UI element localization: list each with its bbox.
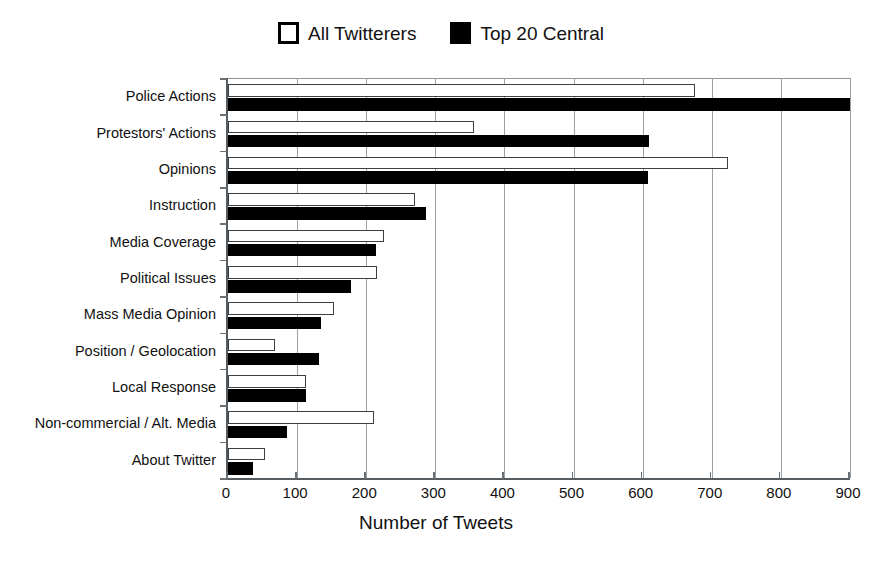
y-axis-tick [220, 151, 227, 153]
x-axis-tick-label: 900 [835, 484, 860, 501]
x-axis-tick [572, 472, 574, 479]
bar-group [228, 223, 850, 259]
bar-all-twitterers [228, 266, 377, 279]
x-axis-tick-label: 700 [697, 484, 722, 501]
bar-top-20-central [228, 135, 649, 148]
bar-top-20-central [228, 462, 253, 475]
x-axis-tick-label: 800 [766, 484, 791, 501]
y-axis-tick [220, 369, 227, 371]
y-axis-tick [220, 478, 227, 480]
y-axis-tick [220, 114, 227, 116]
bar-group [228, 187, 850, 223]
bar-chart-figure: All Twitterers Top 20 Central Police Act… [0, 0, 875, 561]
bar-all-twitterers [228, 157, 728, 170]
legend-label-all-twitterers: All Twitterers [308, 24, 416, 43]
y-axis-tick [220, 405, 227, 407]
bar-top-20-central [228, 280, 351, 293]
x-axis-tick [295, 472, 297, 479]
y-axis-category-label: Mass Media Opinion [84, 307, 216, 322]
bar-all-twitterers [228, 193, 415, 206]
bar-group [228, 405, 850, 441]
bar-top-20-central [228, 317, 321, 330]
filled-square-icon [450, 22, 471, 44]
x-axis-tick [848, 472, 850, 479]
open-square-icon [278, 22, 299, 44]
gridline [850, 78, 851, 478]
bar-group [228, 442, 850, 478]
chart-legend: All Twitterers Top 20 Central [278, 18, 604, 48]
y-axis-category-label: Opinions [159, 162, 216, 177]
x-axis-tick-label: 200 [352, 484, 377, 501]
y-axis-tick [220, 78, 227, 80]
bar-group [228, 296, 850, 332]
y-axis-labels: Police ActionsProtestors' ActionsOpinion… [0, 78, 216, 478]
bar-group [228, 333, 850, 369]
x-axis-tick-label: 0 [222, 484, 230, 501]
bar-all-twitterers [228, 302, 334, 315]
bar-all-twitterers [228, 84, 695, 97]
x-axis-tick [641, 472, 643, 479]
x-axis-tick-label: 300 [421, 484, 446, 501]
bar-group [228, 151, 850, 187]
bar-all-twitterers [228, 339, 275, 352]
y-axis-category-label: Non-commercial / Alt. Media [35, 416, 216, 431]
x-axis-tick-label: 400 [490, 484, 515, 501]
y-axis-category-label: Local Response [112, 380, 216, 395]
y-axis-tick [220, 333, 227, 335]
bar-top-20-central [228, 244, 376, 257]
bar-top-20-central [228, 171, 648, 184]
y-axis-category-label: Position / Geolocation [75, 344, 216, 359]
clipped-caption [430, 0, 860, 6]
y-axis-tick [220, 442, 227, 444]
bar-top-20-central [228, 389, 306, 402]
y-axis-category-label: Police Actions [126, 89, 216, 104]
x-axis-tick-label: 600 [628, 484, 653, 501]
bar-all-twitterers [228, 411, 374, 424]
x-axis-line [226, 478, 850, 480]
bar-all-twitterers [228, 375, 306, 388]
y-axis-tick [220, 296, 227, 298]
bar-all-twitterers [228, 230, 384, 243]
y-axis-category-label: Protestors' Actions [96, 126, 216, 141]
y-axis-category-label: About Twitter [132, 453, 216, 468]
y-axis-tick [220, 260, 227, 262]
y-axis-category-label: Instruction [149, 198, 216, 213]
x-axis-tick [779, 472, 781, 479]
x-axis-tick [364, 472, 366, 479]
y-axis-category-label: Political Issues [120, 271, 216, 286]
bar-top-20-central [228, 207, 426, 220]
bar-group [228, 369, 850, 405]
legend-label-top-20-central: Top 20 Central [480, 24, 604, 43]
x-axis-tick-label: 100 [283, 484, 308, 501]
plot-area [226, 78, 850, 478]
y-axis-tick [220, 223, 227, 225]
y-axis-category-label: Media Coverage [110, 235, 216, 250]
bar-top-20-central [228, 353, 319, 366]
bar-top-20-central [228, 98, 850, 111]
bar-all-twitterers [228, 121, 474, 134]
bar-top-20-central [228, 426, 287, 439]
bar-group [228, 260, 850, 296]
x-axis-title: Number of Tweets [226, 512, 646, 534]
bar-group [228, 78, 850, 114]
y-axis-tick [220, 187, 227, 189]
x-axis-tick-label: 500 [559, 484, 584, 501]
x-axis-tick [710, 472, 712, 479]
bar-all-twitterers [228, 448, 265, 461]
x-axis-tick [433, 472, 435, 479]
legend-entry-all-twitterers: All Twitterers [278, 22, 416, 44]
x-axis-tick [502, 472, 504, 479]
legend-entry-top-20-central: Top 20 Central [450, 22, 604, 44]
bar-group [228, 114, 850, 150]
